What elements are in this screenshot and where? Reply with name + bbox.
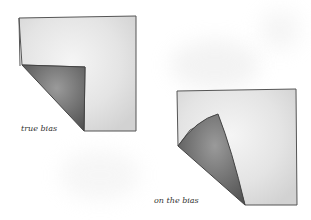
label-on-the-bias: on the bias xyxy=(154,196,199,205)
on-the-bias-square xyxy=(177,89,297,205)
fabric-illustration xyxy=(0,0,311,220)
label-true-bias: true bias xyxy=(21,124,57,133)
true-bias-square xyxy=(19,16,136,131)
